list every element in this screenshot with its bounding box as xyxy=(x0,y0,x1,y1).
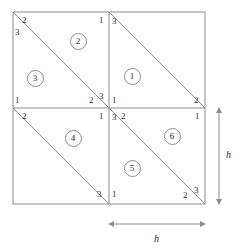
element-number-circle: 6 xyxy=(164,128,181,145)
mesh-geometry xyxy=(0,0,242,252)
node-label: 3 xyxy=(194,186,199,195)
element-number-circle: 1 xyxy=(124,68,141,85)
node-label: 2 xyxy=(121,112,126,121)
node-label: 3 xyxy=(15,28,20,37)
diagonal-bottom-right xyxy=(109,108,205,204)
element-number-circle: 4 xyxy=(65,130,82,147)
width-dimension-arrow xyxy=(108,221,206,227)
node-label: 2 xyxy=(22,112,27,121)
mesh-figure: 2 3 1 3 1 2 3 1 2 2 1 3 2 1 3 1 3 2 1 2 … xyxy=(0,0,242,252)
node-label: 3 xyxy=(99,92,104,101)
node-label: 3 xyxy=(112,17,117,26)
node-label: 1 xyxy=(99,112,104,121)
node-label: 1 xyxy=(112,190,117,199)
height-dimension-arrow xyxy=(216,107,222,205)
width-dimension-label: h xyxy=(154,234,159,244)
node-label: 1 xyxy=(99,16,104,25)
node-label: 3 xyxy=(112,113,117,122)
node-label: 2 xyxy=(89,96,94,105)
node-label: 1 xyxy=(195,112,200,121)
diagonal-top-right xyxy=(109,12,205,108)
node-label: 2 xyxy=(183,191,188,200)
node-label: 1 xyxy=(15,96,20,105)
height-dimension-label: h xyxy=(226,150,231,160)
node-label: 2 xyxy=(194,96,199,105)
element-number-circle: 5 xyxy=(124,160,141,177)
node-label: 1 xyxy=(112,96,117,105)
node-label: 3 xyxy=(97,190,102,199)
element-number-circle: 2 xyxy=(70,33,87,50)
node-label: 2 xyxy=(22,16,27,25)
diagonal-bottom-left xyxy=(13,108,109,204)
diagonal-top-left xyxy=(13,12,109,108)
element-number-circle: 3 xyxy=(27,70,44,87)
